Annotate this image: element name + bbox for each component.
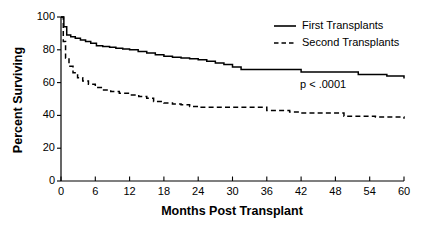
series-second-transplants-line	[61, 17, 404, 119]
y-tick-label: 40	[43, 108, 55, 120]
y-axis-title: Percent Surviving	[11, 47, 25, 153]
x-tick-marks	[61, 177, 404, 182]
x-axis-title: Months Post Transplant	[161, 204, 304, 218]
pvalue-annotation: p < .0001	[300, 78, 346, 90]
survival-chart-figure: Percent Surviving 100 80 60 40 20 0	[0, 0, 425, 231]
x-tick-labels: 0 6 12 18 24 30 36 42 48 54 60	[58, 185, 410, 197]
x-tick-label: 6	[92, 185, 98, 197]
x-tick-label: 42	[295, 185, 307, 197]
chart-legend: First Transplants Second Transplants	[274, 19, 400, 48]
legend-label-first-transplants: First Transplants	[302, 19, 384, 31]
x-tick-label: 12	[123, 185, 135, 197]
x-tick-label: 0	[58, 185, 64, 197]
y-tick-label: 100	[37, 10, 55, 22]
survival-chart-svg: Percent Surviving 100 80 60 40 20 0	[0, 0, 425, 231]
legend-label-second-transplants: Second Transplants	[302, 36, 400, 48]
x-tick-label: 24	[192, 185, 204, 197]
y-tick-labels: 100 80 60 40 20 0	[37, 10, 55, 186]
x-tick-label: 48	[329, 185, 341, 197]
x-tick-label: 36	[261, 185, 273, 197]
y-tick-label: 80	[43, 43, 55, 55]
x-tick-label: 54	[364, 185, 376, 197]
y-tick-label: 60	[43, 76, 55, 88]
y-tick-label: 0	[49, 174, 55, 186]
x-tick-label: 30	[226, 185, 238, 197]
x-tick-label: 18	[158, 185, 170, 197]
x-tick-label: 60	[398, 185, 410, 197]
y-tick-label: 20	[43, 141, 55, 153]
